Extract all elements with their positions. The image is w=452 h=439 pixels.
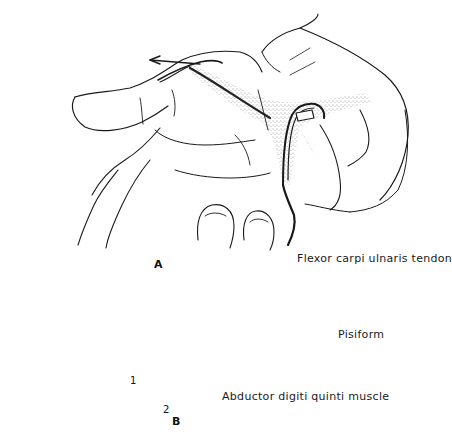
stippled-incision-band	[185, 62, 372, 185]
panel-label-a: A	[154, 258, 163, 271]
marker-1: 1	[130, 375, 136, 386]
marker-2: 2	[163, 404, 169, 415]
label-flexor-carpi-ulnaris-tendon: Flexor carpi ulnaris tendon	[297, 252, 452, 265]
fingertip	[198, 205, 234, 248]
label-abductor-digiti-quinti-muscle: Abductor digiti quinti muscle	[222, 390, 389, 403]
incision-line	[190, 68, 270, 118]
panel-label-b: B	[172, 415, 180, 428]
fingertip	[244, 211, 275, 250]
panel-a-drawing	[72, 14, 408, 250]
label-pisiform: Pisiform	[338, 328, 384, 341]
